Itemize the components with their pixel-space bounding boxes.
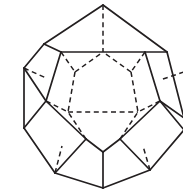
dodecahedron-svg [0, 0, 183, 195]
dodecahedron-figure [0, 0, 183, 195]
figure-background [0, 0, 183, 195]
